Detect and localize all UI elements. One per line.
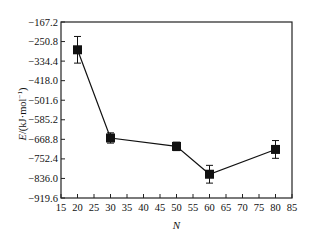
y-tick-label: −836.0 (28, 173, 58, 184)
y-tick-label: −919.6 (28, 193, 58, 204)
x-tick-label: 85 (287, 202, 298, 213)
x-tick-label: 45 (155, 202, 166, 213)
y-axis-title: E/(kJ·mol−1) (16, 87, 29, 141)
x-tick-label: 15 (56, 202, 67, 213)
x-tick-label: 50 (171, 202, 182, 213)
y-tick-label: −501.6 (28, 95, 58, 106)
y-tick-label: −752.4 (28, 153, 58, 164)
y-tick-label: −250.8 (28, 36, 58, 47)
plot-border (61, 22, 292, 198)
x-tick-label: 30 (105, 202, 116, 213)
y-tick-label: −334.4 (28, 56, 58, 67)
x-tick-label: 55 (188, 202, 199, 213)
x-tick-label: 80 (270, 202, 281, 213)
x-tick-label: 25 (89, 202, 100, 213)
x-tick-label: 35 (122, 202, 133, 213)
data-series (73, 36, 280, 183)
y-axis: −167.2−250.8−334.4−418.0−501.6−585.2−668… (28, 17, 65, 204)
x-axis-title: N (172, 219, 181, 231)
x-tick-label: 70 (237, 202, 248, 213)
data-point-marker (205, 170, 214, 179)
data-point-marker (172, 142, 181, 151)
y-tick-label: −418.0 (28, 75, 58, 86)
x-tick-label: 40 (138, 202, 149, 213)
series-line (78, 50, 276, 174)
x-tick-label: 65 (221, 202, 232, 213)
line-chart: −167.2−250.8−334.4−418.0−501.6−585.2−668… (0, 0, 310, 242)
y-tick-label: −167.2 (28, 17, 58, 28)
data-point-marker (73, 45, 82, 54)
y-tick-label: −585.2 (28, 114, 58, 125)
x-tick-label: 75 (254, 202, 265, 213)
x-axis: 152025303540455055606570758085 (56, 194, 298, 213)
plot-frame (61, 22, 292, 198)
data-point-marker (106, 133, 115, 142)
y-tick-label: −668.8 (28, 134, 58, 145)
x-tick-label: 20 (72, 202, 83, 213)
x-tick-label: 60 (204, 202, 215, 213)
data-point-marker (271, 145, 280, 154)
